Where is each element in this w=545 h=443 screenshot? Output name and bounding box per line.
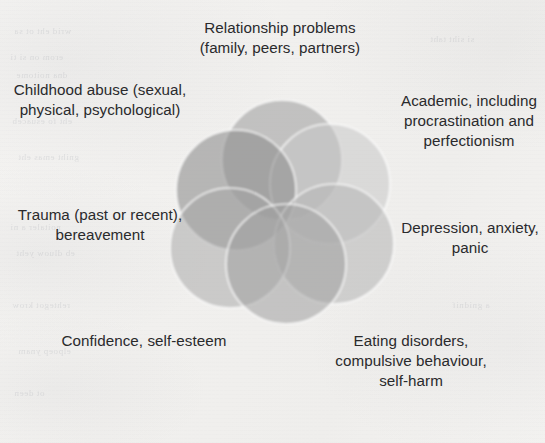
venn-diagram	[170, 98, 406, 326]
venn-diagram-svg	[170, 98, 406, 326]
ghost-text-line: rehtegot krow	[12, 300, 70, 310]
ghost-text-line: gniht emas eht	[18, 152, 79, 162]
label-eating-disorders: Eating disorders, compulsive behaviour, …	[330, 331, 492, 390]
ghost-text-line: a gnidnif	[452, 300, 490, 310]
ghost-text-line: wrid eht ot sa	[14, 26, 71, 36]
ghost-text-line: dna noitome	[16, 70, 67, 80]
ghost-text-line: erom on si ti	[10, 52, 63, 62]
ghost-text-line: si siht taht	[430, 34, 474, 44]
label-depression: Depression, anxiety, panic	[398, 218, 542, 258]
label-academic: Academic, including procrastination and …	[396, 91, 542, 150]
ghost-text-line: eb dluow yeht	[16, 248, 75, 258]
circle-confidence	[226, 204, 346, 324]
label-relationship-problems: Relationship problems (family, peers, pa…	[196, 18, 364, 58]
label-childhood-abuse: Childhood abuse (sexual, physical, psych…	[10, 80, 190, 120]
label-confidence: Confidence, self-esteem	[58, 331, 230, 351]
label-trauma: Trauma (past or recent), bereavement	[12, 205, 188, 245]
ghost-text-line: ot deen	[14, 388, 44, 398]
figure-page: wrid eht ot saerom on si tidna noitomeeh…	[0, 0, 545, 443]
